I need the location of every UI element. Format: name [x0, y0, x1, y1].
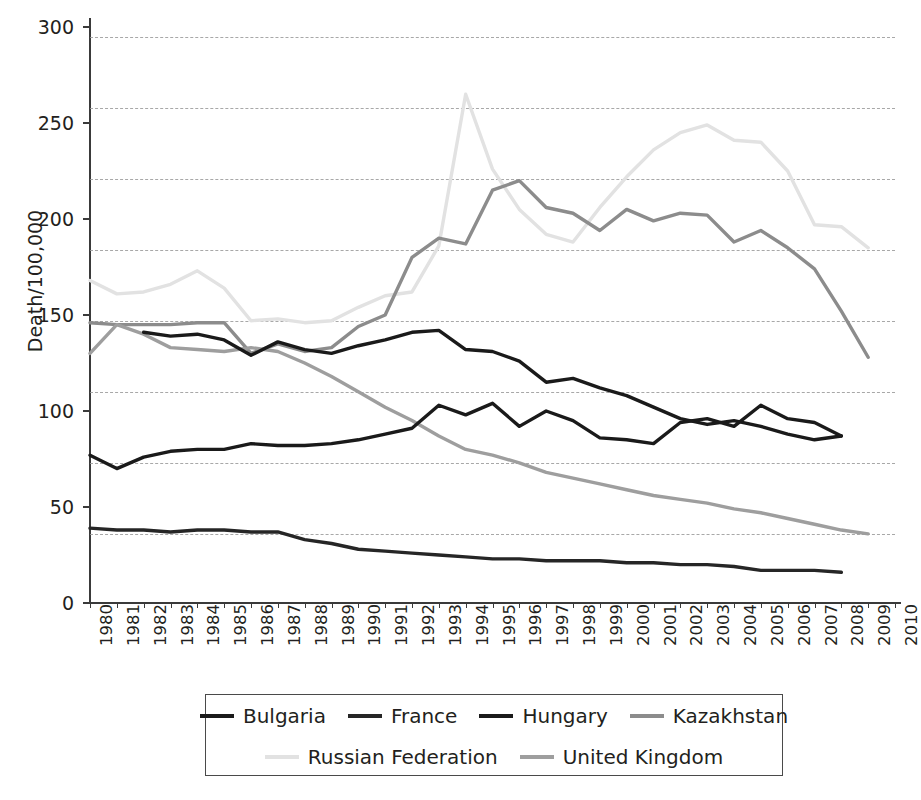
x-tick-mark — [546, 603, 547, 608]
x-tick-mark — [90, 603, 91, 608]
legend-row-1: BulgariaFranceHungaryKazakhstan — [206, 695, 782, 736]
x-tick-mark — [171, 603, 172, 608]
series-line-russian-federation — [90, 94, 868, 322]
x-tick-label: 2007 — [822, 604, 841, 646]
x-tick-mark — [278, 603, 279, 608]
y-tick-label: 300 — [38, 16, 74, 38]
legend-item[interactable]: Hungary — [479, 704, 607, 728]
legend-swatch — [265, 755, 299, 759]
legend-swatch — [200, 714, 234, 718]
x-tick-label: 1988 — [312, 604, 331, 646]
y-tick-label: 50 — [50, 496, 74, 518]
x-tick-label: 1983 — [178, 604, 197, 646]
x-tick-label: 2003 — [714, 604, 733, 646]
legend-swatch — [630, 714, 664, 718]
x-tick-label: 1999 — [607, 604, 626, 646]
x-tick-label: 1981 — [124, 604, 143, 646]
x-tick-label: 2010 — [902, 604, 921, 646]
series-line-kazakhstan — [90, 181, 868, 358]
legend-item[interactable]: Kazakhstan — [630, 704, 788, 728]
x-tick-label: 1993 — [446, 604, 465, 646]
x-tick-mark — [734, 603, 735, 608]
x-tick-label: 1992 — [419, 604, 438, 646]
series-line-united-kingdom — [90, 325, 868, 534]
x-tick-label: 2008 — [848, 604, 867, 646]
x-tick-mark — [144, 603, 145, 608]
x-tick-label: 1980 — [97, 604, 116, 646]
y-tick-label: 150 — [38, 304, 74, 326]
legend-item[interactable]: Bulgaria — [200, 704, 326, 728]
series-line-bulgaria — [90, 403, 841, 468]
x-tick-mark — [224, 603, 225, 608]
legend-swatch — [348, 714, 382, 718]
x-tick-mark — [466, 603, 467, 608]
x-tick-label: 1995 — [500, 604, 519, 646]
y-tick-label: 250 — [38, 112, 74, 134]
x-tick-mark — [654, 603, 655, 608]
x-tick-label: 2006 — [795, 604, 814, 646]
y-tick-mark — [83, 314, 90, 316]
legend-item[interactable]: Russian Federation — [265, 745, 498, 769]
x-tick-mark — [573, 603, 574, 608]
x-tick-mark — [519, 603, 520, 608]
x-tick-label: 2002 — [687, 604, 706, 646]
y-axis-tick-labels: 050100150200250300 — [0, 27, 82, 603]
x-axis-tick-labels: 1980198119821983198419851986198719881989… — [0, 604, 914, 694]
legend-label: Hungary — [522, 704, 607, 728]
x-tick-mark — [627, 603, 628, 608]
data-lines — [90, 27, 895, 603]
legend-item[interactable]: United Kingdom — [520, 745, 724, 769]
y-tick-mark — [83, 26, 90, 28]
y-tick-mark — [83, 602, 90, 604]
x-tick-mark — [439, 603, 440, 608]
x-tick-label: 1990 — [365, 604, 384, 646]
series-line-france — [90, 528, 841, 572]
legend: BulgariaFranceHungaryKazakhstan Russian … — [205, 694, 783, 776]
legend-label: Bulgaria — [243, 704, 326, 728]
x-tick-mark — [707, 603, 708, 608]
x-tick-mark — [117, 603, 118, 608]
legend-label: United Kingdom — [563, 745, 724, 769]
x-tick-label: 1994 — [473, 604, 492, 646]
x-tick-label: 2004 — [741, 604, 760, 646]
x-tick-label: 2005 — [768, 604, 787, 646]
x-tick-label: 1989 — [339, 604, 358, 646]
x-tick-mark — [815, 603, 816, 608]
legend-label: Kazakhstan — [673, 704, 788, 728]
legend-swatch — [479, 714, 513, 718]
x-tick-label: 2000 — [634, 604, 653, 646]
x-tick-mark — [305, 603, 306, 608]
y-tick-mark — [83, 410, 90, 412]
x-tick-label: 2001 — [661, 604, 680, 646]
x-tick-label: 1985 — [231, 604, 250, 646]
x-tick-label: 1986 — [258, 604, 277, 646]
x-tick-mark — [197, 603, 198, 608]
x-tick-mark — [600, 603, 601, 608]
legend-item[interactable]: France — [348, 704, 458, 728]
x-tick-mark — [358, 603, 359, 608]
x-tick-mark — [841, 603, 842, 608]
x-tick-mark — [332, 603, 333, 608]
y-tick-label: 200 — [38, 208, 74, 230]
x-tick-mark — [385, 603, 386, 608]
legend-label: Russian Federation — [308, 745, 498, 769]
x-tick-mark — [761, 603, 762, 608]
y-tick-label: 100 — [38, 400, 74, 422]
y-tick-mark — [83, 506, 90, 508]
x-tick-mark — [493, 603, 494, 608]
x-tick-mark — [788, 603, 789, 608]
legend-row-2: Russian FederationUnited Kingdom — [206, 736, 782, 777]
x-tick-mark — [412, 603, 413, 608]
x-tick-mark — [868, 603, 869, 608]
legend-swatch — [520, 755, 554, 759]
x-tick-label: 1991 — [392, 604, 411, 646]
x-tick-label: 1984 — [204, 604, 223, 646]
x-tick-mark — [680, 603, 681, 608]
x-tick-label: 1997 — [553, 604, 572, 646]
x-tick-label: 1996 — [526, 604, 545, 646]
x-tick-label: 1982 — [151, 604, 170, 646]
x-tick-label: 2009 — [875, 604, 894, 646]
plot-area — [90, 27, 895, 603]
y-tick-mark — [83, 122, 90, 124]
